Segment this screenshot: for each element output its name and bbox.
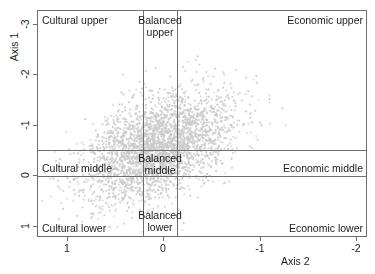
partition-vline-1 [177,11,178,236]
y-tick-label-2: -1 [19,120,31,129]
annotation-economic-middle: Economic middle [283,162,363,174]
x-tick-label-3: -2 [351,242,360,254]
scatter-points-layer [38,11,366,236]
x-axis-title: Axis 2 [281,255,310,267]
plot-area: Cultural upper Balanced upper Economic u… [37,10,367,237]
x-tick-mark-1 [163,237,164,241]
x-tick-label-0: 1 [64,242,70,254]
y-axis-title: Axis 1 [8,33,20,62]
partition-hline-0 [38,150,366,151]
y-tick-label-0: -3 [19,19,31,28]
x-tick-mark-0 [67,237,68,241]
x-tick-mark-2 [260,237,261,241]
x-tick-label-1: 0 [160,242,166,254]
annotation-economic-lower: Economic lower [289,222,363,234]
annotation-balanced-middle: Balanced middle [125,152,195,176]
annotation-cultural-upper: Cultural upper [42,14,108,26]
x-tick-label-2: -1 [255,242,264,254]
annotation-cultural-middle: Cultural middle [42,162,112,174]
annotation-balanced-lower: Balanced lower [125,209,195,233]
annotation-cultural-lower: Cultural lower [42,222,106,234]
x-tick-mark-3 [356,237,357,241]
y-tick-label-3: 0 [19,172,31,178]
annotation-balanced-upper: Balanced upper [125,14,195,38]
partition-hline-1 [38,176,366,177]
y-tick-label-1: -2 [19,69,31,78]
annotation-economic-upper: Economic upper [287,14,363,26]
y-tick-label-4: 1 [19,223,31,229]
partition-vline-0 [143,11,144,236]
scatter-plot-figure: Axis 1 -3-2-101 Cultural upper Balanced … [0,0,375,274]
